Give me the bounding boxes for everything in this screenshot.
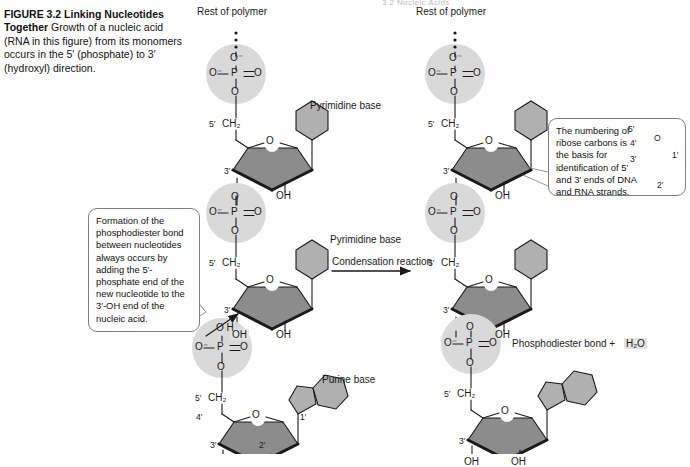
- phosphate-o-right1: O⁻: [428, 67, 441, 78]
- phosphodiester-bond-label: Phosphodiester bond +: [512, 338, 615, 349]
- ch2-left-mid: CH₂: [222, 257, 240, 268]
- c5-prime-right-mid: 5′: [428, 258, 434, 268]
- phosphodiester-o-bottom: O: [466, 357, 474, 368]
- oh-2prime-left-top: OH: [276, 190, 291, 201]
- left-nucleotide-incoming: [192, 318, 348, 454]
- phosphate-p-right-top: P: [450, 67, 457, 78]
- ch2-left-top: CH₂: [222, 118, 240, 129]
- phosphate-oh-incoming: O H: [216, 322, 234, 333]
- ring-o-right-mid: O: [485, 274, 493, 285]
- c5-prime-left-mid: 5′: [209, 258, 215, 268]
- phosphodiester-p: P: [466, 337, 473, 348]
- phosphate-o-left1: O⁻: [209, 67, 222, 78]
- c2-prime-incoming: 2′: [259, 440, 265, 450]
- c5-prime-right-top: 5′: [428, 119, 434, 129]
- rest-of-polymer-label-left: Rest of polymer: [197, 6, 267, 17]
- mini-c3-prime: 3′: [630, 154, 636, 164]
- phosphate-o-rmid1: O: [450, 191, 458, 202]
- c1-prime-incoming: 1′: [300, 412, 306, 422]
- ch2-incoming: CH₂: [208, 392, 226, 403]
- phosphate-o-minus-left-top: O⁻: [230, 52, 243, 63]
- callout-ribose-numbering: The numbering of ribose carbons is the b…: [548, 118, 686, 196]
- mini-c2-prime: 2′: [657, 180, 663, 190]
- oh-2prime-right-bottom: OH: [511, 456, 526, 467]
- purine-base-label-left: Purine base: [322, 374, 375, 385]
- ring-o-left-top: O: [266, 135, 274, 146]
- phosphate-o-inc2: O: [240, 341, 248, 352]
- phosphate-o-mid2: O⁻: [209, 206, 222, 217]
- phosphate-p-left-mid: P: [231, 206, 238, 217]
- water-label: H₂O: [624, 338, 647, 349]
- c5-prime-incoming: 5′: [195, 393, 201, 403]
- mini-c5-prime: 5′: [628, 124, 634, 134]
- plus-sign: +: [609, 338, 615, 349]
- phosphate-o-left2: O: [254, 67, 262, 78]
- phosphate-o-mid1: O: [231, 191, 239, 202]
- oh-2prime-right-mid: OH: [495, 329, 510, 340]
- c4-prime-incoming: 4′: [196, 412, 202, 422]
- oh-3prime-right-bottom: OH: [464, 456, 479, 467]
- c3-prime-right-mid: 3′: [443, 305, 449, 315]
- phosphate-o-inc1: O⁻: [195, 341, 208, 352]
- c3-prime-left-top: 3′: [224, 166, 230, 176]
- phosphodiester-o-left: O⁻: [444, 337, 457, 348]
- ch2-right-bottom: CH₂: [457, 388, 475, 399]
- c5-prime-right-bottom: 5′: [444, 389, 450, 399]
- ring-o-left-mid: O: [266, 274, 274, 285]
- oh-2prime-left-mid: OH: [276, 329, 291, 340]
- callout-phosphodiester-text: Formation of the phosphodiester bond bet…: [96, 215, 185, 324]
- ch2-right-mid: CH₂: [441, 257, 459, 268]
- mini-c4-prime: 4′: [630, 138, 636, 148]
- phosphate-o-rmid2: O⁻: [428, 206, 441, 217]
- phosphate-o-right3: O: [450, 86, 458, 97]
- mini-c1-prime: 1′: [672, 150, 678, 160]
- figure-number: FIGURE 3.2: [4, 8, 61, 20]
- c5-prime-left-top: 5′: [209, 119, 215, 129]
- pyrimidine-base-label-1: Pyrimidine base: [310, 100, 381, 111]
- ch2-right-top: CH₂: [441, 118, 459, 129]
- c3-prime-left-mid: 3′: [224, 305, 230, 315]
- phosphate-o-mid3: O: [254, 206, 262, 217]
- condensation-reaction-label: Condensation reaction: [332, 256, 432, 267]
- callout-ribose-numbering-text: The numbering of ribose carbons is the b…: [556, 125, 638, 198]
- c3-prime-right-bottom: 3′: [459, 436, 465, 446]
- mini-ring-o: O: [654, 133, 661, 143]
- oh-2prime-right-top: OH: [495, 190, 510, 201]
- ring-o-right-bottom: O: [501, 405, 509, 416]
- phosphate-o-rmid4: O: [450, 225, 458, 236]
- phosphodiester-o-right: O: [489, 337, 497, 348]
- phosphate-p-left-top: P: [231, 67, 238, 78]
- pyrimidine-base-label-2: Pyrimidine base: [330, 234, 401, 245]
- callout-phosphodiester: Formation of the phosphodiester bond bet…: [88, 208, 200, 332]
- phosphate-p-right-mid: P: [450, 206, 457, 217]
- phosphate-p-incoming: P: [217, 341, 224, 352]
- c3-prime-right-top: 3′: [443, 166, 449, 176]
- c3-prime-incoming: 3′: [210, 440, 216, 450]
- figure-caption: FIGURE 3.2 Linking Nucleotides Together …: [4, 8, 190, 75]
- right-nucleotide-bottom: [441, 314, 597, 454]
- phosphodiester-o-top: O: [466, 321, 474, 332]
- phosphate-o-minus-right-top: O⁻: [449, 52, 462, 63]
- phosphate-o-inc3: O: [217, 361, 225, 372]
- phosphate-o-right2: O: [473, 67, 481, 78]
- ring-o-incoming: O: [252, 409, 260, 420]
- phosphate-o-rmid3: O: [473, 206, 481, 217]
- phosphate-o-mid4: O: [231, 225, 239, 236]
- rest-of-polymer-label-right: Rest of polymer: [416, 6, 486, 17]
- phosphate-o-left3: O: [231, 86, 239, 97]
- ring-o-right-top: O: [485, 135, 493, 146]
